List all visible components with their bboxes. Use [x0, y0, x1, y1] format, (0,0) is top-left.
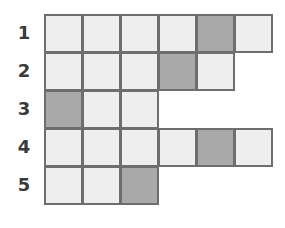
grid-cell-r4-c3: [120, 128, 159, 167]
grid-cell-r1-c4: [158, 14, 197, 53]
grid-cell-r5-c2: [82, 166, 121, 205]
grid-cell-r2-c4: [158, 52, 197, 91]
row-label-2: 2: [9, 52, 39, 90]
row-label-3: 3: [9, 90, 39, 128]
grid-cell-r3-c2: [82, 90, 121, 129]
grid-cell-r5-c1: [44, 166, 83, 205]
grid-cell-r4-c4: [158, 128, 197, 167]
grid-cell-r1-c3: [120, 14, 159, 53]
grid-cell-r5-c3: [120, 166, 159, 205]
grid-cell-r3-c1: [44, 90, 83, 129]
row-label-4: 4: [9, 128, 39, 166]
grid-cell-r1-c1: [44, 14, 83, 53]
grid-cell-r4-c6: [234, 128, 273, 167]
grid-cell-r1-c2: [82, 14, 121, 53]
grid-diagram: 12345: [0, 0, 285, 228]
grid-cell-r2-c3: [120, 52, 159, 91]
grid-cell-r1-c6: [234, 14, 273, 53]
grid-cell-r4-c2: [82, 128, 121, 167]
row-label-1: 1: [9, 14, 39, 52]
grid-cell-r2-c2: [82, 52, 121, 91]
grid-cell-r4-c1: [44, 128, 83, 167]
grid-cell-r2-c1: [44, 52, 83, 91]
row-label-5: 5: [9, 166, 39, 204]
grid-cell-r4-c5: [196, 128, 235, 167]
grid-cell-r2-c5: [196, 52, 235, 91]
grid-cell-r3-c3: [120, 90, 159, 129]
grid-cell-r1-c5: [196, 14, 235, 53]
